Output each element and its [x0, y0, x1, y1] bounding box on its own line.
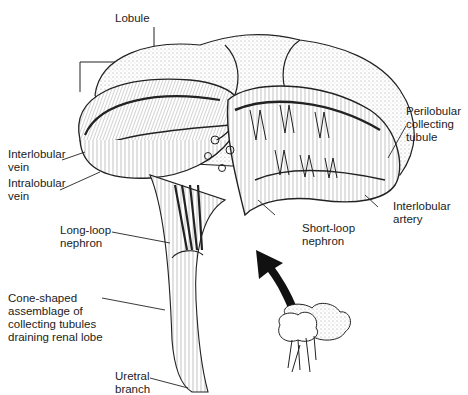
label-uretral-branch: Uretral branch — [115, 370, 150, 395]
lobe-cluster-inset — [279, 303, 351, 372]
label-short-loop-nephron: Short-loop nephron — [302, 222, 355, 248]
label-perilobular-collecting-tubule: Perilobular collecting tubule — [406, 105, 461, 144]
label-interlobular-vein: Interlobular vein — [8, 148, 66, 174]
label-interlobular-artery: Interlobular artery — [393, 200, 451, 226]
label-cone-shaped-assemblage: Cone-shaped assemblage of collecting tub… — [8, 292, 103, 344]
label-long-loop-nephron: Long-loop nephron — [60, 224, 111, 250]
label-lobule: Lobule — [115, 12, 150, 25]
cone-stalk — [150, 175, 225, 392]
label-intralobular-vein: Intralobular vein — [8, 177, 66, 203]
renal-lobe-diagram: Lobule Interlobular vein Intralobular ve… — [0, 0, 468, 395]
